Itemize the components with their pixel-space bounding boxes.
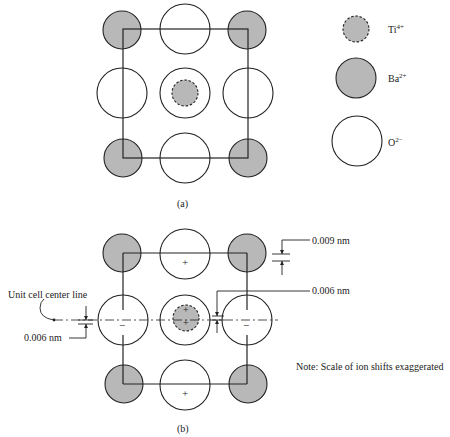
oxygen-ion [160, 229, 210, 279]
legend-titanium-icon [343, 16, 369, 42]
oxygen-ion [160, 360, 210, 410]
caption-a: (a) [177, 198, 188, 209]
oxygen-ion [97, 68, 147, 118]
arrow-head [280, 250, 284, 254]
arrow-head [215, 320, 219, 324]
arrow-head [84, 316, 88, 320]
center-line-label: Unit cell center line [8, 290, 87, 300]
sign-minus: − [243, 320, 249, 331]
sign-plus: + [183, 305, 189, 315]
barium-ion [228, 11, 266, 49]
legend-barium-icon [336, 58, 376, 98]
part-b-distorted-cell [40, 229, 310, 410]
center-line-leader [40, 299, 54, 320]
shift-label-ba: 0.009 nm [312, 236, 350, 246]
arrow-head [84, 324, 88, 328]
part-a-unit-cell [97, 4, 273, 183]
legend-label-titanium: Ti4+ [388, 24, 404, 35]
legend [332, 16, 382, 166]
barium-ion [103, 11, 141, 49]
shift-label-ti: 0.006 nm [312, 286, 350, 296]
caption-b: (b) [177, 423, 189, 434]
sign-plus: + [182, 257, 188, 268]
sign-plus: + [183, 318, 189, 328]
titanium-ion [172, 80, 198, 106]
arrow-head [215, 312, 219, 316]
legend-label-barium: Ba2+ [388, 73, 407, 84]
arrow-head [280, 261, 284, 265]
note-text: Note: Scale of ion shifts exaggerated [296, 362, 443, 372]
sign-plus: + [182, 388, 188, 399]
shift-label-left: 0.006 nm [24, 333, 62, 343]
legend-label-oxygen: O2− [388, 137, 403, 148]
legend-oxygen-icon [332, 116, 382, 166]
sign-minus: − [119, 320, 125, 331]
